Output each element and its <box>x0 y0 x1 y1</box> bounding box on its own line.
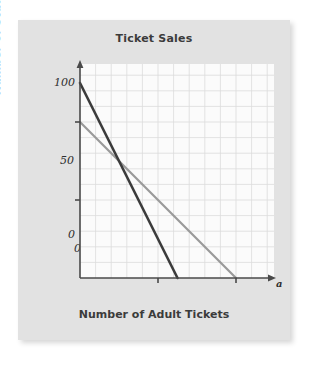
chart-card: Ticket Sales Number of Student Tickets N… <box>18 20 290 340</box>
plot-area <box>18 20 290 320</box>
plot-background <box>80 64 274 278</box>
y-axis-title: Number of Student Tickets <box>0 0 3 112</box>
